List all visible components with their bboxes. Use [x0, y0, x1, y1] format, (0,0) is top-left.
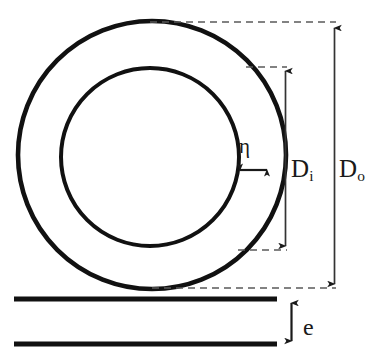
inner-diameter-label: Di	[291, 156, 313, 181]
inner-diameter-label-base: D	[291, 155, 309, 182]
outer-diameter-label: Do	[339, 156, 365, 181]
outer-diameter-label-base: D	[339, 155, 357, 182]
outer-diameter-label-subscript: o	[357, 167, 365, 184]
height-label: e	[303, 315, 314, 339]
inner-diameter-label-subscript: i	[309, 167, 313, 184]
inner-circle	[61, 68, 239, 246]
diagram-canvas	[0, 0, 380, 358]
wall-thickness-label: η	[239, 136, 250, 157]
ring-dimension-diagram: η Di Do e	[0, 0, 380, 358]
